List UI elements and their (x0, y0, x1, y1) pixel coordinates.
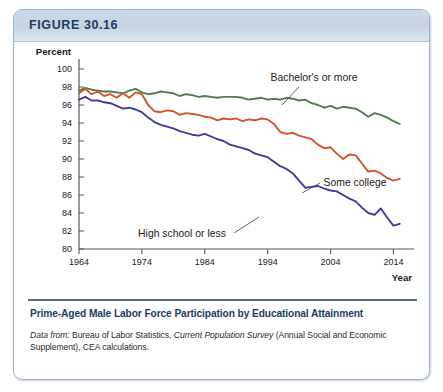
source-text-1: Bureau of Labor Statistics, (70, 330, 174, 340)
figure-card: FIGURE 30.16 808284868890929496981001964… (13, 9, 430, 380)
y-tick-label: 96 (62, 100, 72, 110)
series-leader-line-2 (234, 217, 259, 233)
figure-caption: Prime-Aged Male Labor Force Participatio… (30, 307, 418, 320)
y-tick-label: 98 (62, 82, 72, 92)
series-label-2: High school or less (138, 228, 226, 239)
x-tick-label: 2014 (383, 257, 403, 267)
source-publication-title: Current Population Survey (174, 330, 274, 340)
x-tick-label: 1984 (195, 257, 215, 267)
series-label-0: Bachelor's or more (271, 72, 358, 83)
x-tick-label: 2004 (321, 257, 341, 267)
series-line-1 (79, 89, 400, 181)
y-tick-label: 82 (62, 226, 72, 236)
y-tick-label: 94 (62, 118, 72, 128)
caption-divider (28, 299, 417, 301)
figure-header-band: FIGURE 30.16 (14, 10, 429, 42)
x-tick-label: 1994 (258, 257, 278, 267)
y-tick-label: 84 (62, 208, 72, 218)
y-tick-label: 100 (57, 64, 72, 74)
figure-number-label: FIGURE 30.16 (29, 18, 118, 32)
chart-series-lines (79, 88, 400, 226)
x-tick-label: 1974 (132, 257, 152, 267)
chart-plot-area: 8082848688909294969810019641974198419942… (14, 41, 430, 284)
y-tick-label: 80 (62, 244, 72, 254)
series-leader-line-0 (282, 87, 299, 105)
series-line-2 (79, 97, 400, 226)
y-axis-title: Percent (36, 46, 72, 57)
y-tick-label: 90 (62, 154, 72, 164)
figure-source-note: Data from: Bureau of Labor Statistics, C… (30, 330, 414, 353)
y-tick-label: 88 (62, 172, 72, 182)
line-chart-svg: 8082848688909294969810019641974198419942… (14, 41, 430, 284)
x-axis-title: Year (392, 272, 413, 283)
series-line-0 (79, 88, 400, 124)
series-label-1: Some college (324, 177, 387, 188)
y-tick-label: 92 (62, 136, 72, 146)
y-tick-label: 86 (62, 190, 72, 200)
source-prefix: Data from: (30, 330, 70, 340)
x-tick-label: 1964 (69, 257, 89, 267)
